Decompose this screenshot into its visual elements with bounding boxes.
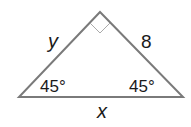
right-leg-label: 8 [141,31,152,52]
right-angle-marker [90,23,110,33]
left-angle-label: 45° [40,77,66,96]
right-angle-label: 45° [129,77,155,96]
hypotenuse-label: x [96,100,108,122]
left-leg-label: y [46,30,59,52]
triangle-diagram: y 8 x 45° 45° [0,0,191,127]
